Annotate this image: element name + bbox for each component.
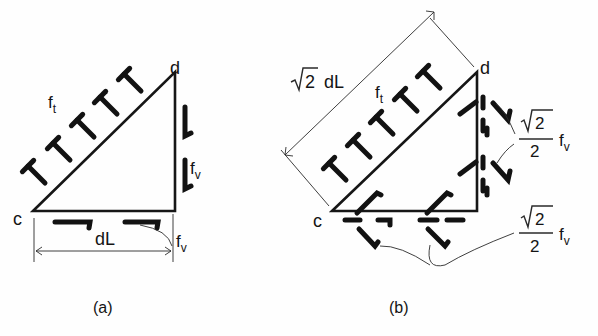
sqrt2-over-2-fv-label-bottom: 2 2 fv: [519, 206, 570, 256]
shear-components-side-b: [460, 97, 510, 195]
caption-a: (a): [93, 299, 113, 316]
svg-text:dL: dL: [324, 72, 344, 92]
svg-text:2: 2: [530, 237, 539, 256]
fv-bottom-label: fv: [176, 232, 187, 255]
diagram-canvas: d c ft fv fv dL (a): [0, 0, 598, 336]
ft-label-b: ft: [375, 83, 384, 106]
dl-label: dL: [95, 229, 115, 249]
shear-arrows-bottom-a: [55, 222, 158, 228]
svg-text:fv: fv: [559, 225, 570, 248]
ft-label: ft: [48, 93, 57, 116]
vertex-d-label: d: [170, 58, 180, 78]
vertex-c-label: c: [13, 209, 22, 229]
panel-a: d c ft fv fv dL (a): [13, 58, 201, 316]
svg-text:2: 2: [305, 72, 315, 92]
stress-element-diagram: d c ft fv fv dL (a): [0, 0, 598, 336]
svg-text:2: 2: [535, 114, 544, 133]
vertex-c-label-b: c: [313, 211, 322, 231]
caption-b: (b): [389, 299, 409, 316]
fv-side-label: fv: [190, 159, 201, 182]
svg-text:2: 2: [535, 210, 544, 229]
svg-text:2: 2: [530, 142, 539, 161]
vertex-d-label-b: d: [480, 58, 490, 78]
shear-components-bottom-b: [345, 193, 463, 246]
sqrt2-dl-label: 2 dL: [291, 68, 344, 92]
tension-arrows-a: [22, 68, 146, 188]
sqrt2-over-2-fv-label-top: 2 2 fv: [519, 110, 570, 161]
dimension-sqrt2-dl: [281, 11, 474, 206]
panel-b: d c ft 2 dL 2 2 fv 2 2 fv (b): [281, 11, 570, 316]
svg-text:fv: fv: [559, 131, 570, 154]
